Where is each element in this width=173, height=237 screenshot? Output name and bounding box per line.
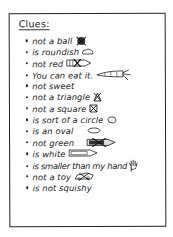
bullet-icon [26, 107, 28, 109]
clues-title: Clues: [19, 19, 50, 30]
clue-item: is white [26, 149, 138, 161]
clue-item: is not squishy [26, 183, 138, 195]
crossed-out-ball-icon [75, 36, 86, 46]
clue-item: not a square [26, 104, 138, 116]
crossed-out-triangle-icon [93, 92, 102, 102]
crossed-out-toy-car-icon [74, 172, 94, 181]
clue-item: not a ball [26, 36, 138, 48]
clue-item: not a triangle [26, 92, 138, 104]
bullet-icon [26, 62, 28, 64]
clue-item: not green [26, 137, 138, 149]
bullet-icon [26, 74, 28, 76]
bullet-icon [26, 51, 28, 53]
bullet-icon [26, 40, 28, 42]
crossed-out-square-icon [89, 104, 98, 113]
bullet-icon [26, 119, 28, 121]
hand-icon [128, 159, 138, 172]
circle-icon [107, 115, 117, 123]
bullet-icon [26, 152, 28, 154]
clue-item: is sort of a circle [26, 115, 138, 127]
clues-list: not a ball is roundish not red You can e… [26, 36, 139, 195]
oval-icon [87, 127, 101, 134]
clue-item: is roundish [26, 47, 138, 59]
bullet-icon [26, 96, 28, 98]
bullet-icon [26, 165, 28, 167]
clues-card: Clues: not a ball is roundish not red Yo… [9, 13, 167, 228]
carrot-icon [96, 69, 132, 81]
white-crayon-icon [69, 149, 99, 157]
bullet-icon [26, 186, 28, 188]
bullet-icon [26, 141, 28, 143]
crossed-out-red-crayon-icon [66, 59, 92, 67]
bullet-icon [26, 175, 28, 177]
clue-item: is smaller than my hand [26, 160, 138, 172]
clue-item: You can eat it. [26, 70, 138, 82]
crossed-out-green-crayon-icon [86, 138, 116, 147]
clue-item: is an oval [26, 126, 138, 138]
clue-item: not a toy [26, 171, 138, 183]
clue-item: not sweet [26, 81, 138, 93]
bullet-icon [26, 130, 28, 132]
roundish-blob-icon [82, 48, 94, 56]
bullet-icon [26, 85, 28, 87]
